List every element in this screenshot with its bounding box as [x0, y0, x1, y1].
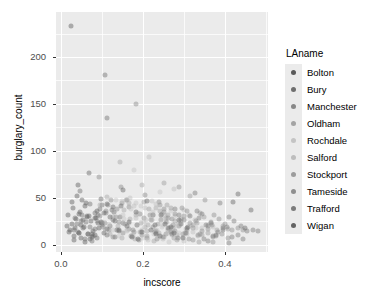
data-point	[130, 235, 135, 240]
data-point	[146, 155, 151, 160]
data-point	[135, 222, 140, 227]
data-point	[161, 180, 166, 185]
data-point	[212, 212, 217, 217]
data-point	[69, 200, 74, 205]
x-tick-label: 0.2	[123, 258, 163, 269]
data-point	[92, 226, 97, 231]
data-point	[83, 204, 88, 209]
x-tick-mark	[61, 252, 62, 255]
data-point	[192, 190, 197, 195]
x-tick-label: 0.0	[41, 258, 81, 269]
legend-item-bolton[interactable]: Bolton	[285, 64, 379, 81]
data-point	[119, 204, 124, 209]
legend-point-icon	[291, 155, 297, 161]
gridline-major-horizontal	[56, 198, 268, 199]
data-point	[117, 234, 122, 239]
data-point	[82, 236, 87, 241]
data-point	[140, 182, 145, 187]
data-point	[232, 219, 237, 224]
data-point	[235, 233, 240, 238]
data-point	[248, 207, 253, 212]
data-point	[66, 213, 71, 218]
legend-item-label: Salford	[307, 152, 337, 163]
scatter-plot-figure: 050100150200 0.00.20.4 incscore burglary…	[0, 0, 379, 297]
data-point	[221, 225, 226, 230]
data-point	[131, 168, 136, 173]
gridline-major-horizontal	[56, 104, 268, 105]
data-point	[132, 204, 137, 209]
legend-item-label: Stockport	[307, 169, 347, 180]
data-point	[116, 227, 121, 232]
data-point	[226, 240, 231, 245]
data-point	[68, 24, 73, 29]
data-point	[151, 238, 156, 243]
data-point	[87, 171, 92, 176]
data-point	[75, 182, 80, 187]
data-point	[157, 190, 162, 195]
y-tick-mark	[53, 245, 56, 246]
data-point	[175, 235, 180, 240]
data-point	[136, 236, 141, 241]
data-point	[229, 235, 234, 240]
legend-item-label: Bolton	[307, 67, 334, 78]
data-point	[205, 231, 210, 236]
legend-point-icon	[291, 70, 297, 76]
legend-key-swatch	[285, 81, 302, 98]
data-point	[218, 201, 223, 206]
data-point	[73, 216, 78, 221]
legend-item-manchester[interactable]: Manchester	[285, 98, 379, 115]
data-point	[121, 188, 126, 193]
data-point	[181, 235, 186, 240]
legend-item-label: Manchester	[307, 101, 357, 112]
legend-key-swatch	[285, 183, 302, 200]
legend-item-trafford[interactable]: Trafford	[285, 200, 379, 217]
gridline-major-vertical	[225, 12, 226, 252]
legend: LAname BoltonBuryManchesterOldhamRochdal…	[285, 48, 379, 234]
data-point	[103, 72, 108, 77]
legend-key-swatch	[285, 98, 302, 115]
data-point	[211, 239, 216, 244]
legend-item-bury[interactable]: Bury	[285, 81, 379, 98]
data-point	[177, 212, 182, 217]
data-point	[94, 235, 99, 240]
data-point	[195, 208, 200, 213]
data-point	[77, 189, 82, 194]
data-point	[230, 200, 235, 205]
data-point	[88, 202, 93, 207]
legend-point-icon	[291, 138, 297, 144]
data-point	[105, 202, 110, 207]
legend-point-icon	[291, 206, 297, 212]
data-point	[172, 231, 177, 236]
data-point	[104, 194, 109, 199]
legend-point-icon	[291, 121, 297, 127]
data-point	[196, 216, 201, 221]
legend-item-salford[interactable]: Salford	[285, 149, 379, 166]
legend-item-tameside[interactable]: Tameside	[285, 183, 379, 200]
legend-key-swatch	[285, 64, 302, 81]
gridline-major-horizontal	[56, 57, 268, 58]
legend-item-stockport[interactable]: Stockport	[285, 166, 379, 183]
data-point	[203, 222, 208, 227]
data-point	[164, 203, 169, 208]
data-point	[81, 225, 86, 230]
data-point	[172, 187, 177, 192]
legend-item-label: Bury	[307, 84, 327, 95]
legend-item-wigan[interactable]: Wigan	[285, 217, 379, 234]
data-point	[145, 199, 150, 204]
data-point	[184, 208, 189, 213]
data-point	[133, 209, 138, 214]
legend-item-oldham[interactable]: Oldham	[285, 115, 379, 132]
data-point	[111, 209, 116, 214]
data-point	[196, 239, 201, 244]
data-point	[217, 217, 222, 222]
legend-item-label: Wigan	[307, 220, 334, 231]
data-point	[96, 220, 101, 225]
legend-item-rochdale[interactable]: Rochdale	[285, 132, 379, 149]
data-point	[168, 224, 173, 229]
legend-key-swatch	[285, 115, 302, 132]
data-point	[110, 228, 115, 233]
data-point	[159, 213, 164, 218]
data-point	[167, 239, 172, 244]
data-point	[143, 192, 148, 197]
data-point	[87, 224, 92, 229]
